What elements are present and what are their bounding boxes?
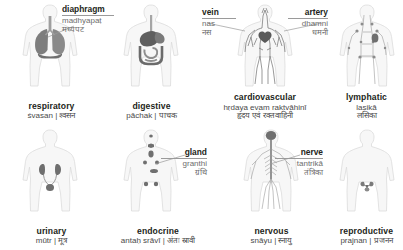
callout-vein-devanagari: नस <box>202 29 236 38</box>
caption-nervous: nervous snāyu | स्नायु <box>213 227 330 246</box>
system-label-respiratory-en: respiratory <box>0 102 103 111</box>
system-label-cardiovascular-devanagari: हृदय एवं रक्तवाहिनी <box>200 112 330 121</box>
caption-digestive: digestive pāchak | पाचक <box>103 102 200 121</box>
brain-organ <box>266 131 276 140</box>
system-label-endocrine-en: endocrine <box>103 227 213 236</box>
systems-row-top: diaphragm madhyapaṭ मध्यपट respiratory ś… <box>0 0 403 125</box>
callout-nerve: nerve tantrikā तंत्रिका <box>275 148 323 178</box>
system-label-digestive-sub: pāchak | पाचक <box>103 112 200 121</box>
caption-cardiovascular: cardiovascular hṛdaya evam raktvāhinī हृ… <box>200 93 330 121</box>
system-label-urinary-sub: mūtr | मूत्र <box>0 237 103 246</box>
gonad-left <box>144 182 148 186</box>
system-label-lymphatic-devanagari: लसिका <box>330 112 403 121</box>
callout-artery-en: artery <box>288 8 328 19</box>
bladder-organ <box>46 184 54 191</box>
system-label-urinary-en: urinary <box>0 227 103 236</box>
system-card-respiratory[interactable]: diaphragm madhyapaṭ मध्यपट respiratory ś… <box>0 0 103 125</box>
caption-respiratory: respiratory śvasan | श्वसन <box>0 102 103 121</box>
esophagus-organ <box>150 15 152 32</box>
system-label-reproductive-sub: prajnan | प्रजनन <box>330 237 403 246</box>
callout-vein: vein nas नस <box>202 8 236 38</box>
system-label-cardiovascular-en: cardiovascular <box>200 93 330 102</box>
callout-gland-devanagari: ग्रंथि <box>161 169 207 178</box>
system-card-digestive[interactable]: digestive pāchak | पाचक <box>103 0 200 125</box>
caption-endocrine: endocrine antaḥ srāvī | अंतः स्रावी <box>103 227 213 246</box>
spleen-organ <box>372 33 379 42</box>
system-card-cardiovascular[interactable]: vein nas नस artery dhamni धमनी cardiovas… <box>200 0 330 125</box>
thymus-gland <box>148 151 153 158</box>
systems-row-bottom: urinary mūtr | मूत्र <box>0 125 403 250</box>
body-silhouette <box>23 130 77 211</box>
system-label-reproductive-en: reproductive <box>330 227 403 236</box>
callout-vein-en: vein <box>202 8 236 19</box>
system-label-endocrine-sub: antaḥ srāvī | अंतः स्रावी <box>103 237 213 246</box>
system-card-lymphatic[interactable]: lymphatic lasikā लसिका <box>330 0 403 125</box>
system-label-lymphatic-en: lymphatic <box>330 93 403 102</box>
callout-artery-devanagari: धमनी <box>288 29 328 38</box>
system-card-reproductive[interactable]: reproductive prajnan | प्रजनन <box>330 125 403 250</box>
system-label-nervous-sub: snāyu | स्नायु <box>213 237 330 246</box>
callout-artery: artery dhamni धमनी <box>288 8 328 38</box>
adrenal-gland-left <box>143 161 147 165</box>
system-label-respiratory-sub: śvasan | श्वसन <box>0 112 103 121</box>
caption-lymphatic: lymphatic lasikā लसिका <box>330 93 403 121</box>
digestive-figure <box>115 2 187 88</box>
lymphatic-figure <box>331 2 403 88</box>
body-silhouette <box>238 5 292 86</box>
body-silhouette <box>340 5 394 86</box>
reproductive-body-svg <box>331 127 403 213</box>
reproductive-figure <box>331 127 403 213</box>
system-card-nervous[interactable]: nerve tantrikā तंत्रिका nervous snāyu | … <box>213 125 330 250</box>
caption-urinary: urinary mūtr | मूत्र <box>0 227 103 246</box>
pancreas-gland <box>150 169 158 173</box>
pituitary-gland <box>149 134 153 137</box>
urinary-figure <box>14 127 86 213</box>
body-systems-diagram: diaphragm madhyapaṭ मध्यपट respiratory ś… <box>0 0 403 250</box>
urinary-body-svg <box>14 127 86 213</box>
callout-gland-en: gland <box>161 148 207 159</box>
gonad-right <box>154 182 158 186</box>
callout-gland: gland granthi ग्रंथि <box>161 148 207 178</box>
lymphatic-body-svg <box>331 2 403 88</box>
system-card-urinary[interactable]: urinary mūtr | मूत्र <box>0 125 103 250</box>
reproductive-organ <box>360 182 373 192</box>
body-silhouette <box>340 130 394 211</box>
system-label-digestive-en: digestive <box>103 102 200 111</box>
callout-nerve-devanagari: तंत्रिका <box>275 169 323 178</box>
callout-nerve-en: nerve <box>275 148 323 159</box>
system-card-endocrine[interactable]: gland granthi ग्रंथि endocrine antaḥ srā… <box>103 125 213 250</box>
system-label-nervous-en: nervous <box>213 227 330 236</box>
digestive-body-svg <box>115 2 187 88</box>
caption-reproductive: reproductive prajnan | प्रजनन <box>330 227 403 246</box>
